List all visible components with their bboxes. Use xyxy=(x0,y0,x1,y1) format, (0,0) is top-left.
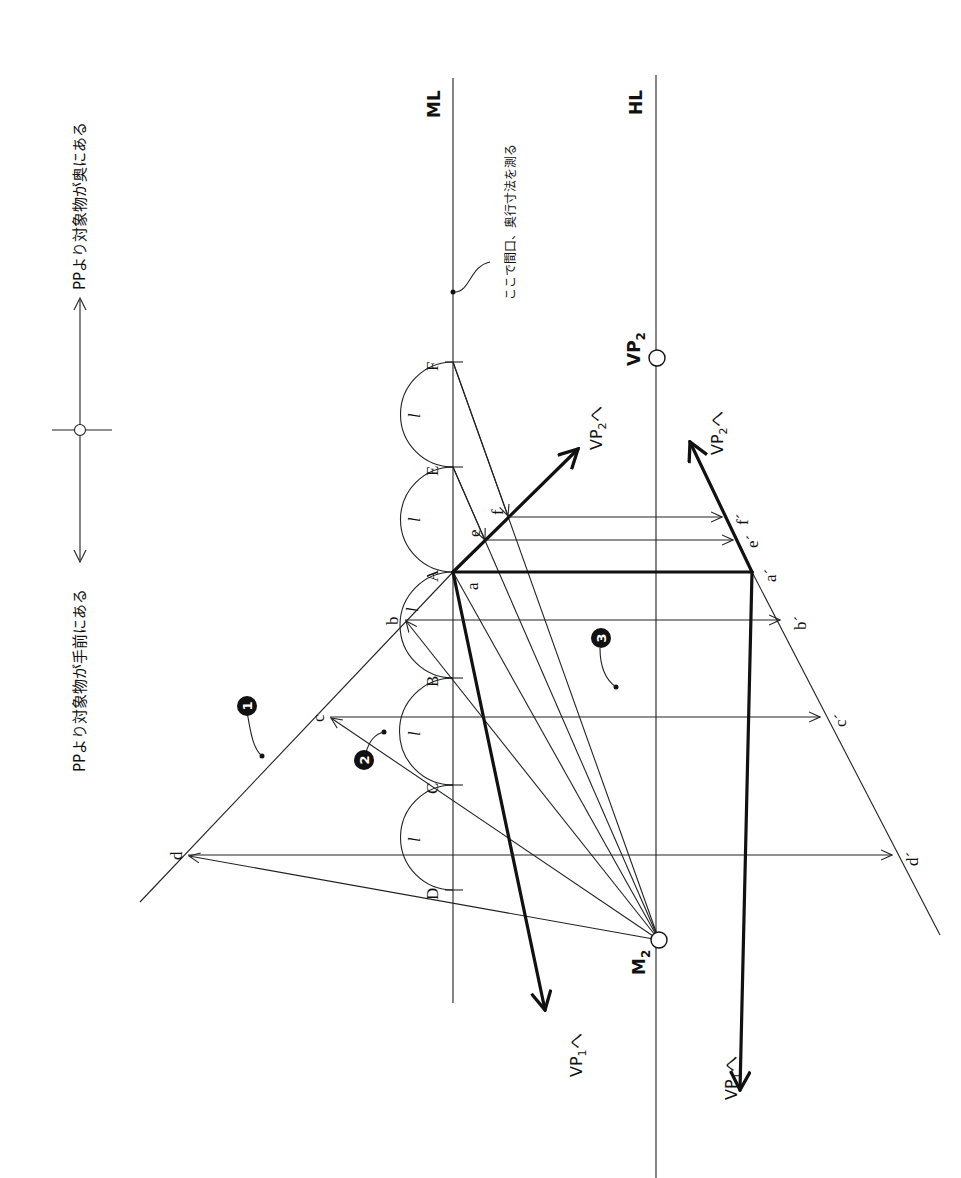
svg-text:3: 3 xyxy=(594,633,609,642)
projected-labels: a´ e´ f´ b´ c´ d´ xyxy=(733,514,922,866)
svg-text:c: c xyxy=(309,714,328,722)
svg-text:1: 1 xyxy=(240,701,255,710)
legend-near-text: PPより対象物が手前にある xyxy=(71,589,89,772)
svg-text:d´: d´ xyxy=(903,852,922,866)
point-b-label: B xyxy=(423,676,442,687)
ray-f xyxy=(453,362,508,516)
segment-arcs xyxy=(400,362,454,890)
perspective-edge-to-vp2 xyxy=(690,442,752,572)
legend-far-text: PPより対象物が奥にある xyxy=(71,122,89,290)
svg-text:l: l xyxy=(405,413,424,418)
badge-1: 1 xyxy=(237,696,265,759)
badge-2: 2 xyxy=(354,730,387,771)
svg-text:b´: b´ xyxy=(791,616,810,630)
svg-text:l: l xyxy=(405,837,424,842)
svg-text:2: 2 xyxy=(357,755,372,764)
hl-label: HL xyxy=(626,90,646,115)
vp2-label: VP2 xyxy=(624,332,648,366)
to-vp2-lower-label: VP2へ xyxy=(708,411,730,455)
m2-label: M2 xyxy=(629,950,653,975)
point-c-label: C xyxy=(423,783,442,794)
svg-text:b: b xyxy=(383,617,402,626)
ray-e xyxy=(453,467,485,540)
svg-text:f: f xyxy=(488,509,507,515)
svg-text:c´: c´ xyxy=(831,714,850,727)
point-e-label: E xyxy=(423,466,442,476)
to-vp2-upper-label: VP2へ xyxy=(587,406,609,450)
measure-text: ここで間口、奥行寸法を測る xyxy=(504,144,518,300)
svg-text:e´: e´ xyxy=(743,535,762,548)
to-vp1-upper-label: VP1へ xyxy=(567,1033,589,1077)
vp2-point-icon xyxy=(649,350,665,366)
svg-text:l: l xyxy=(405,517,424,522)
ml-ticks xyxy=(445,362,463,890)
perspective-diagram: PPより対象物が奥にある PPより対象物が手前にある ML HL ここで間口、奥… xyxy=(0,0,961,1178)
projectors xyxy=(188,517,892,855)
svg-text:a: a xyxy=(463,582,482,590)
ml-point-labels: F E A B C D xyxy=(423,362,442,900)
to-vp1-lower-label: VP1へ xyxy=(722,1056,744,1100)
badge-3: 3 xyxy=(591,628,619,690)
svg-text:f´: f´ xyxy=(733,514,752,525)
svg-text:d: d xyxy=(167,851,186,860)
svg-text:l: l xyxy=(405,731,424,736)
measure-annotation: ここで間口、奥行寸法を測る xyxy=(451,144,519,300)
ml-label: ML xyxy=(424,90,444,118)
plan-edge-to-vp1 xyxy=(453,572,545,1010)
perspective-edge-to-vp1 xyxy=(740,572,752,1090)
pp-circle-icon xyxy=(75,425,86,436)
pp-legend: PPより対象物が奥にある PPより対象物が手前にある xyxy=(52,122,112,772)
point-a-label: A xyxy=(423,569,442,582)
svg-text:e: e xyxy=(465,529,484,537)
point-f-label: F xyxy=(423,362,442,371)
m2-point-icon xyxy=(651,932,667,948)
svg-text:a´: a´ xyxy=(761,569,780,582)
perspective-near-line xyxy=(752,572,940,935)
